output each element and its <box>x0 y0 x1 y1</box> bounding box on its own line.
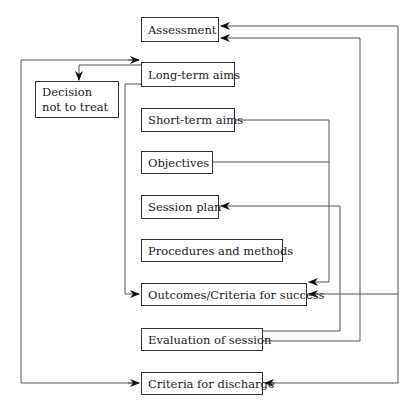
edge-evaluation-to-session-plan <box>221 206 340 331</box>
node-long-term-aims: Long-term aims <box>141 62 235 87</box>
node-evaluation-of-session: Evaluation of session <box>141 328 263 351</box>
node-short-term-aims: Short-term aims <box>141 108 235 132</box>
node-session-plan: Session plan <box>141 195 219 219</box>
node-objectives: Objectives <box>141 151 213 174</box>
edge-long-term-to-outcomes <box>125 84 141 294</box>
node-criteria-for-discharge: Criteria for discharge <box>141 372 263 395</box>
node-decision-not-to-treat: Decision not to treat <box>35 81 119 118</box>
edge-long-term-to-decision <box>79 65 141 80</box>
node-procedures-and-methods: Procedures and methods <box>141 239 283 262</box>
node-assessment: Assessment <box>141 17 219 42</box>
node-outcomes-criteria-for-success: Outcomes/Criteria for success <box>141 283 307 306</box>
